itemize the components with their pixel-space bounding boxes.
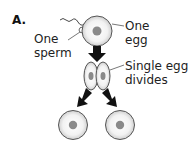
arrow-down-icon bbox=[88, 46, 106, 62]
egg-leader bbox=[112, 24, 124, 26]
divide-label-line2: divides bbox=[125, 74, 168, 87]
divide-label-line1: Single egg bbox=[125, 60, 188, 73]
sperm-tail bbox=[60, 19, 84, 26]
dividing-cell-right bbox=[96, 62, 110, 90]
egg-label-line1: One bbox=[125, 20, 149, 33]
daughter-cell-left bbox=[59, 111, 88, 140]
egg-label-line2: egg bbox=[125, 34, 148, 47]
divide-leader bbox=[110, 65, 124, 70]
daughter-cell-right bbox=[106, 111, 135, 140]
egg-cell bbox=[82, 16, 112, 46]
arrow-down-left-icon bbox=[77, 88, 92, 107]
arrow-down-right-icon bbox=[102, 88, 117, 107]
sperm-label-line1: One bbox=[34, 33, 58, 46]
sperm-label-line2: sperm bbox=[34, 47, 72, 60]
sperm-leader bbox=[68, 32, 80, 40]
